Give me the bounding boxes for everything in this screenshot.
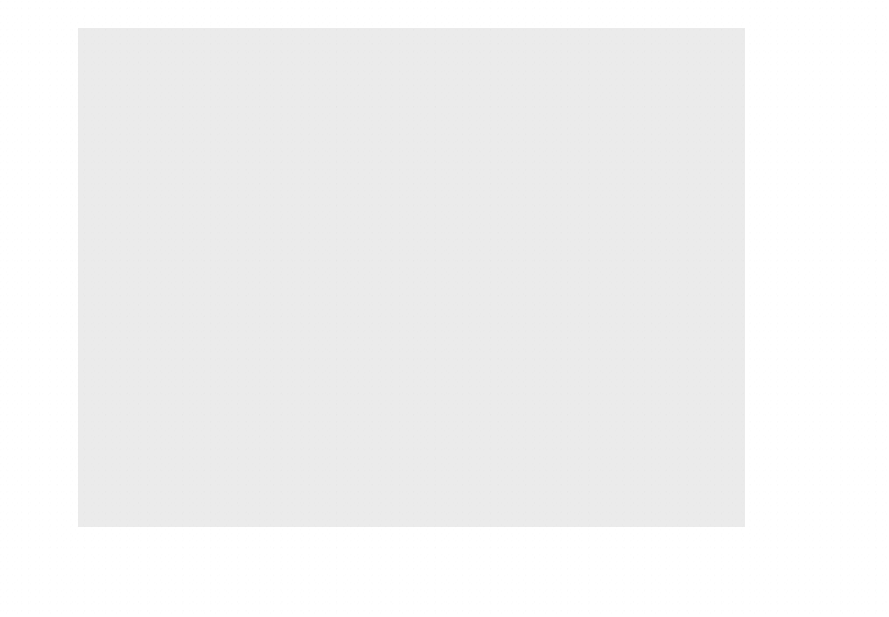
plot-panel <box>78 28 745 527</box>
plot-area <box>78 28 745 527</box>
chart-figure <box>0 0 889 617</box>
